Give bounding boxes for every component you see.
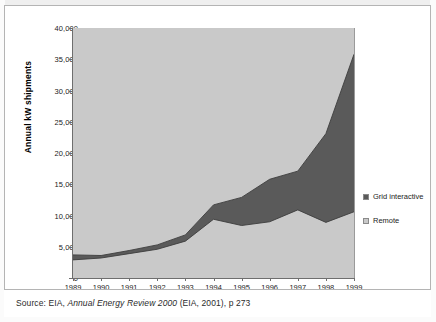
y-axis-title: Annual kW shipments (23, 32, 33, 182)
legend-item[interactable]: Remote (363, 216, 436, 225)
plot-right-edge (354, 28, 355, 278)
source-title: Annual Energy Review 2000 (67, 298, 177, 308)
x-axis-tick-mark (270, 278, 271, 281)
x-axis-tick-mark (129, 278, 130, 281)
source-suffix: (EIA, 2001), p 273 (180, 298, 251, 308)
legend-label: Grid interactive (373, 192, 423, 201)
source-prefix: Source: EIA, (16, 298, 65, 308)
figure-frame: Annual kW shipments 05,00010,00015,00020… (0, 0, 436, 322)
x-axis-tick-mark (73, 278, 74, 281)
source-footer: Source: EIA, Annual Energy Review 2000 (… (4, 289, 431, 317)
legend-item[interactable]: Grid interactive (363, 192, 436, 201)
x-axis-tick-mark (214, 278, 215, 281)
legend-swatch-icon (363, 218, 369, 224)
x-axis-tick-mark (157, 278, 158, 281)
source-note: Source: EIA, Annual Energy Review 2000 (… (16, 298, 250, 308)
legend-label: Remote (373, 216, 399, 225)
x-axis-tick-mark (101, 278, 102, 281)
x-axis-tick-mark (242, 278, 243, 281)
y-axis-line (72, 28, 73, 278)
x-axis-tick-mark (326, 278, 327, 281)
plot-area (73, 28, 354, 278)
chart-card: Annual kW shipments 05,00010,00015,00020… (5, 6, 430, 289)
legend-swatch-icon (363, 194, 369, 200)
chart-legend: Grid interactiveRemote (363, 192, 436, 240)
stacked-area-svg (73, 28, 354, 278)
x-axis-tick-mark (185, 278, 186, 281)
x-axis-tick-mark (354, 278, 355, 281)
x-axis-tick-mark (298, 278, 299, 281)
area-series-remote (73, 210, 354, 278)
